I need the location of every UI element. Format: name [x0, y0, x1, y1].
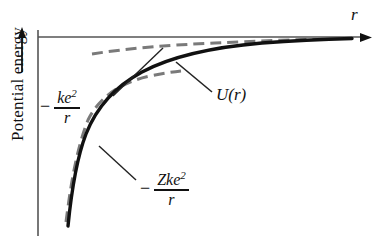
fraction-ke2: ke2 r: [54, 88, 80, 126]
y-axis-title-text: Potential energy: [8, 27, 28, 141]
leader-line-ur: [176, 62, 212, 92]
fraction-denominator-ke2: r: [61, 109, 73, 126]
minus-sign-zke2: −: [140, 179, 150, 199]
curve-label-minus-ke2-over-r: − ke2 r: [40, 88, 80, 126]
y-axis-title: Potential energy: [6, 4, 30, 164]
minus-sign-ke2: −: [40, 97, 50, 117]
curve-label-u-of-r: U(r): [216, 86, 246, 103]
x-axis-title-text: r: [351, 6, 358, 23]
leader-line-zke2: [99, 146, 136, 180]
numerator-base-ke2: ke: [57, 89, 71, 106]
leader-line-ke2: [113, 48, 163, 96]
numerator-exponent-ke2: 2: [71, 87, 77, 99]
curve-label-minus-Zke2-over-r: − Zke2 r: [140, 170, 189, 208]
numerator-base-zke2: Zke: [157, 171, 180, 188]
fraction-denominator-zke2: r: [165, 191, 177, 208]
potential-energy-figure: Potential energy r U(r) − ke2 r − Zke2 r: [0, 0, 379, 236]
fraction-numerator-ke2: ke2: [54, 88, 80, 107]
fraction-zke2: Zke2 r: [154, 170, 189, 208]
x-axis-arrowhead: [360, 33, 372, 42]
numerator-exponent-zke2: 2: [180, 169, 186, 181]
fraction-numerator-zke2: Zke2: [154, 170, 189, 189]
curve-U-of-r: [68, 39, 352, 227]
